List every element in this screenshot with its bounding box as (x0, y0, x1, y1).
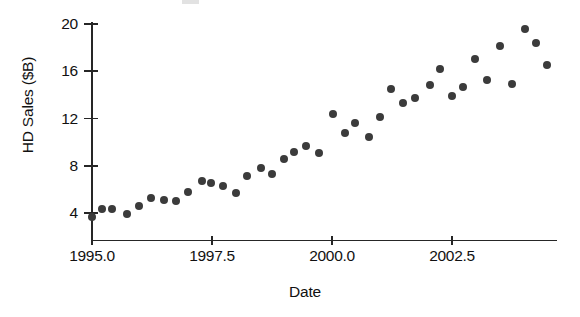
data-point (207, 179, 215, 187)
data-point (483, 76, 491, 84)
scatter-plot-figure: 48121620 1995.01997.52000.02002.5 HD Sal… (0, 0, 580, 317)
data-point (108, 205, 116, 213)
x-tick-label: 1995.0 (47, 248, 137, 264)
data-point (532, 39, 540, 47)
x-axis-title: Date (245, 283, 365, 301)
data-point (315, 149, 323, 157)
y-tick-label: 4 (38, 205, 78, 221)
data-point (426, 81, 434, 89)
data-point (147, 194, 155, 202)
data-point (521, 25, 529, 33)
data-point (219, 182, 227, 190)
cropped-title-artifact (182, 0, 199, 4)
data-point (448, 92, 456, 100)
data-point (496, 42, 504, 50)
data-point (411, 94, 419, 102)
data-point (123, 210, 131, 218)
y-tick-label: 20 (38, 16, 78, 32)
data-point (88, 213, 96, 221)
data-point (198, 177, 206, 185)
data-point (172, 197, 180, 205)
data-point (399, 99, 407, 107)
y-tick-label: 8 (38, 158, 78, 174)
data-point (436, 65, 444, 73)
y-axis-title: HD Sales ($B) (19, 15, 37, 195)
data-point (135, 202, 143, 210)
y-tick-label: 16 (38, 63, 78, 79)
data-point (160, 196, 168, 204)
x-tick-label: 2002.5 (407, 248, 497, 264)
data-point (459, 83, 467, 91)
data-point (184, 188, 192, 196)
x-tick-label: 2000.0 (287, 248, 377, 264)
data-point (376, 113, 384, 121)
data-point (232, 189, 240, 197)
data-point (280, 155, 288, 163)
data-point (98, 205, 106, 213)
data-point (257, 164, 265, 172)
plot-area (92, 10, 560, 240)
data-point (243, 172, 251, 180)
data-point (471, 55, 479, 63)
data-point (341, 129, 349, 137)
y-tick-label: 12 (38, 111, 78, 127)
data-point (290, 148, 298, 156)
data-point (365, 133, 373, 141)
data-point (543, 61, 551, 69)
data-point (302, 142, 310, 150)
x-tick-label: 1997.5 (167, 248, 257, 264)
data-point (329, 110, 337, 118)
data-point (268, 170, 276, 178)
data-point (387, 85, 395, 93)
data-point (508, 80, 516, 88)
data-point (351, 119, 359, 127)
